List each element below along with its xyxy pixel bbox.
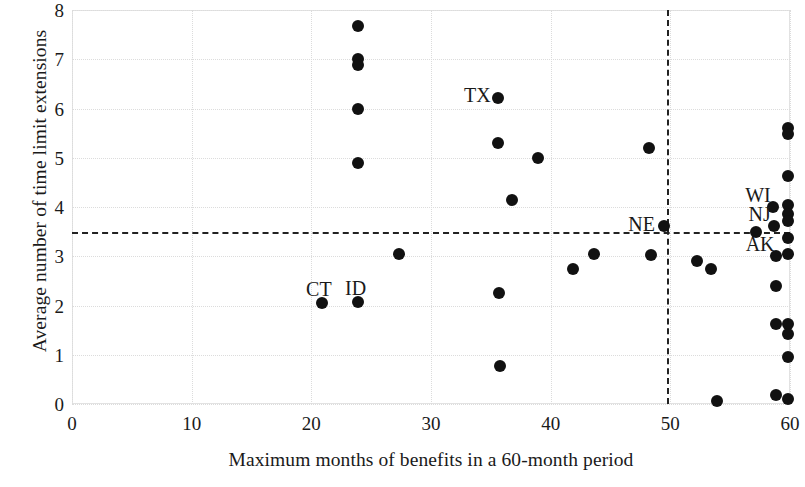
data-point [782,170,794,182]
point-label-ct: CT [306,279,332,299]
y-tick-label: 8 [24,1,64,20]
point-label-ne: NE [628,214,655,234]
data-point [492,92,504,104]
gridline-horizontal [72,404,790,405]
data-point [352,20,364,32]
y-tick-label: 3 [24,247,64,266]
point-label-nj: NJ [748,204,770,224]
data-point [643,142,655,154]
point-label-wi: WI [745,185,771,205]
data-point [691,255,703,267]
reference-line-vertical [667,10,669,404]
data-point [782,351,794,363]
data-point [506,194,518,206]
data-point [770,280,782,292]
y-tick-label: 2 [24,296,64,315]
data-point [782,128,794,140]
x-axis-title: Maximum months of benefits in a 60-month… [72,449,790,471]
data-point [352,157,364,169]
data-point [567,263,579,275]
data-point [782,215,794,227]
x-tick-label: 0 [42,414,102,433]
gridline-vertical [72,10,73,404]
y-tick-label: 5 [24,148,64,167]
gridline-vertical [670,10,671,404]
gridline-vertical [551,10,552,404]
x-tick-label: 30 [401,414,461,433]
x-tick-label: 20 [281,414,341,433]
data-point [494,360,506,372]
plot-area: TXNECTIDWINJAK [72,10,790,404]
gridline-vertical [311,10,312,404]
data-point [492,137,504,149]
x-tick-label: 10 [162,414,222,433]
y-tick-label: 7 [24,50,64,69]
data-point [352,103,364,115]
data-point [770,389,782,401]
data-point [705,263,717,275]
point-label-tx: TX [464,85,491,105]
y-tick-label: 1 [24,345,64,364]
data-point [393,248,405,260]
gridline-vertical [192,10,193,404]
data-point [782,232,794,244]
y-tick-label: 0 [24,395,64,414]
data-point [770,318,782,330]
reference-line-horizontal [72,232,790,234]
gridline-vertical [431,10,432,404]
data-point [532,152,544,164]
point-label-ak: AK [746,234,775,254]
y-tick-label: 4 [24,198,64,217]
scatter-plot-figure: Average number of time limit extensions … [0,0,805,487]
x-tick-label: 50 [640,414,700,433]
x-tick-label: 40 [521,414,581,433]
data-point [588,248,600,260]
data-point [782,328,794,340]
data-point [658,220,670,232]
point-label-id: ID [345,278,366,298]
x-tick-label: 60 [760,414,805,433]
data-point [782,248,794,260]
data-point [711,395,723,407]
y-tick-label: 6 [24,99,64,118]
data-point [782,393,794,405]
